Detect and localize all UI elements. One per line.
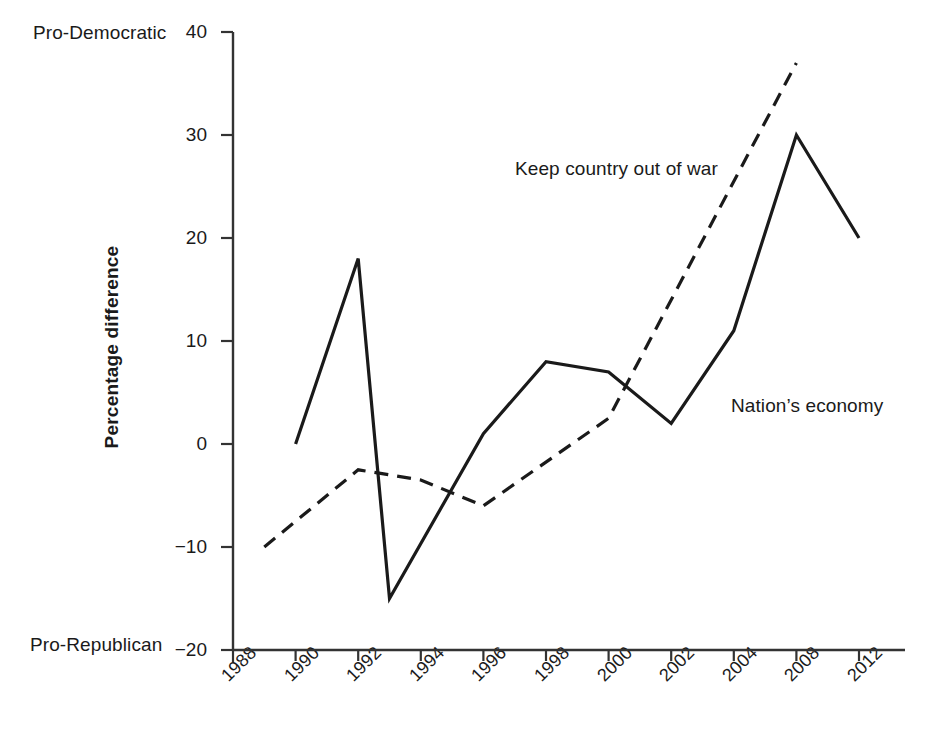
- chart-figure: Pro-Democratic Pro-Republican Percentage…: [0, 0, 942, 745]
- data-series: [264, 63, 859, 599]
- series-annotation-keep-country-out-of-war: Keep country out of war: [515, 158, 718, 180]
- x-axis-ticks: [233, 650, 859, 662]
- series-line-nations-economy: [296, 135, 859, 599]
- plot-area: [0, 0, 942, 745]
- axes: [221, 32, 905, 662]
- y-axis-ticks: [221, 32, 233, 650]
- series-annotation-nations-economy: Nation’s economy: [731, 395, 883, 417]
